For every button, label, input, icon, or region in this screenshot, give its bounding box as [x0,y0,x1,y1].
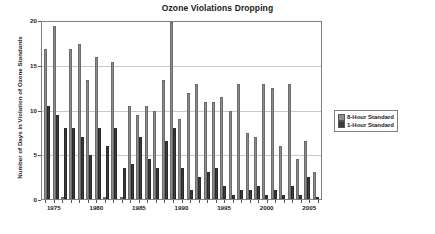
bar-1-hour [274,190,277,199]
x-tick-mark [275,200,276,203]
bar-group [77,22,85,199]
x-tick-mark [301,200,302,203]
bar-1-hour [291,186,294,199]
bar-group [119,22,127,199]
x-tick-label: 1980 [83,204,109,211]
y-tick-label: 10 [7,107,37,114]
bar-1-hour [257,186,260,199]
bar-1-hour [223,186,226,199]
x-tick-mark [224,200,225,203]
bar-1-hour [156,168,159,199]
y-tick-label: 5 [7,151,37,158]
bar-group [127,22,135,199]
x-tick-mark [233,200,234,203]
bar-1-hour [265,195,268,199]
x-tick-mark [139,200,140,203]
bar-group [110,22,118,199]
bar-1-hour [282,195,285,199]
bar-8-hour [229,111,232,200]
bar-1-hour [181,168,184,199]
bar-1-hour [106,146,109,199]
bar-1-hour [148,159,151,199]
x-tick-mark [182,200,183,203]
x-tick-mark [130,200,131,203]
x-tick-label: 2000 [254,204,280,211]
bar-group [93,22,101,199]
bar-group [236,22,244,199]
bar-1-hour [72,128,75,199]
bar-group [219,22,227,199]
x-tick-mark [54,200,55,203]
legend-item-1-hour-standard: 1-Hour Standard [338,121,394,128]
x-tick-mark [122,200,123,203]
bar-1-hour [114,128,117,199]
bar-group [160,22,168,199]
bar-1-hour [249,190,252,199]
y-tick-label: 0 [7,196,37,203]
x-tick-mark [164,200,165,203]
bar-1-hour [47,106,50,199]
bar-1-hour [198,177,201,199]
bar-8-hour [279,146,282,199]
plot-area [41,21,322,200]
bar-1-hour [299,195,302,199]
bar-group [169,22,177,199]
bar-1-hour [173,128,176,199]
x-tick-mark [216,200,217,203]
legend-swatch-1-hour-standard [338,121,345,128]
x-tick-mark [62,200,63,203]
bar-8-hour [313,172,316,199]
bar-group [51,22,59,199]
bar-8-hour [187,93,190,199]
x-tick-mark [190,200,191,203]
x-tick-mark [258,200,259,203]
bar-group [43,22,51,199]
bar-1-hour [190,190,193,199]
x-tick-mark [173,200,174,203]
chart-root: Ozone Violations Dropping Number of Days… [0,0,435,234]
bar-8-hour [246,133,249,199]
bar-1-hour [89,155,92,199]
bar-1-hour [232,195,235,199]
x-tick-mark [45,200,46,203]
x-tick-mark [113,200,114,203]
legend-item-8-hour-standard: 8-Hour Standard [338,114,394,121]
chart-legend: 8-Hour Standard 1-Hour Standard [334,110,398,132]
bar-group [177,22,185,199]
bar-group [60,22,68,199]
bar-8-hour [220,97,223,199]
bar-group [295,22,303,199]
bar-group [135,22,143,199]
x-tick-mark [147,200,148,203]
x-tick-mark [292,200,293,203]
x-tick-mark [79,200,80,203]
bar-8-hour [288,84,291,199]
bar-group [228,22,236,199]
bar-1-hour [98,128,101,199]
legend-swatch-8-hour-standard [338,114,345,121]
bar-group [144,22,152,199]
bar-1-hour [215,168,218,199]
x-tick-mark [96,200,97,203]
x-tick-mark [207,200,208,203]
x-tick-mark [71,200,72,203]
bar-1-hour [139,137,142,199]
bar-series-container [42,22,321,199]
x-tick-label: 1985 [126,204,152,211]
bar-group [102,22,110,199]
x-tick-mark [199,200,200,203]
bar-1-hour [64,128,67,199]
bar-group [278,22,286,199]
bar-1-hour [240,190,243,199]
bar-1-hour [307,177,310,199]
bar-group [202,22,210,199]
chart-title: Ozone Violations Dropping [0,3,435,13]
y-tick-label: 20 [7,17,37,24]
bar-1-hour [123,168,126,199]
x-tick-mark [284,200,285,203]
bar-group [194,22,202,199]
x-tick-mark [88,200,89,203]
legend-label-8-hour-standard: 8-Hour Standard [347,114,394,120]
bar-1-hour [56,115,59,199]
y-tick-mark [38,200,41,201]
